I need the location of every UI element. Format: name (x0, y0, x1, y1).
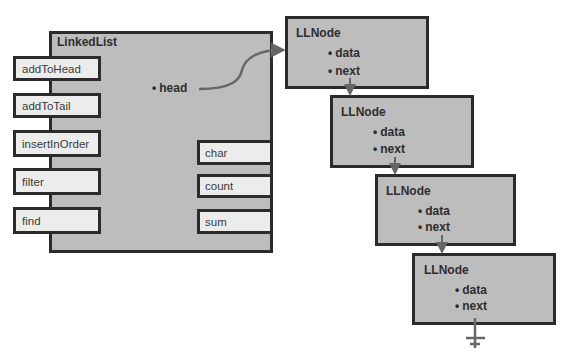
llnode-title-3: LLNode (424, 263, 469, 277)
head-property: •head (152, 81, 187, 95)
bullet-icon: • (328, 46, 332, 60)
llnode-data-1: •data (373, 125, 405, 139)
method-addtohead-button[interactable]: addToHead (13, 56, 101, 81)
llnode-next-3: •next (455, 299, 487, 313)
bullet-icon: • (373, 142, 377, 156)
llnode-title-0: LLNode (296, 26, 341, 40)
bullet-icon: • (373, 125, 377, 139)
field-char: char (197, 140, 270, 165)
method-filter-button[interactable]: filter (13, 168, 101, 195)
bullet-icon: • (328, 64, 332, 78)
linkedlist-title: LinkedList (57, 35, 117, 49)
llnode-data-0: •data (328, 46, 360, 60)
bullet-icon: • (455, 283, 459, 297)
llnode-next-2: •next (418, 220, 450, 234)
llnode-data-3: •data (455, 283, 487, 297)
bullet-icon: • (152, 81, 156, 95)
bullet-icon: • (418, 204, 422, 218)
field-count: count (197, 174, 270, 198)
llnode-data-2: •data (418, 204, 450, 218)
method-addtotail-button[interactable]: addToTail (13, 93, 101, 118)
llnode-title-1: LLNode (341, 105, 386, 119)
field-sum: sum (197, 209, 270, 234)
llnode-title-2: LLNode (386, 184, 431, 198)
llnode-next-1: •next (373, 142, 405, 156)
bullet-icon: • (418, 220, 422, 234)
method-insertinorder-button[interactable]: insertInOrder (13, 130, 101, 157)
bullet-icon: • (455, 299, 459, 313)
head-label: head (159, 81, 187, 95)
llnode-next-0: •next (328, 64, 360, 78)
method-find-button[interactable]: find (13, 207, 101, 234)
